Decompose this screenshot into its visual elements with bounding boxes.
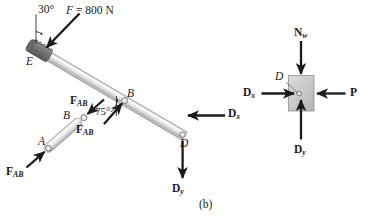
block-free-body-diagram [262,41,346,140]
beam-shadow-lower [39,53,182,137]
label-block-Dx: Dx [243,87,255,100]
label-block-Dx-subscript: x [251,91,255,100]
label-block-Dy-subscript: y [302,148,305,157]
angle-label-30: 30° [38,4,54,16]
member-AB-pin-B [81,115,87,121]
label-force-Nw: Nw [294,27,308,40]
member-AB-pin-A [46,145,52,151]
label-joint-B-beam: B [127,88,134,100]
label-force-Nw-subscript: w [302,31,307,40]
angle-label-75: 75° [95,106,110,117]
label-block-P: P [350,87,357,99]
label-reaction-Dy: Dy [172,183,184,196]
label-force-FAB-on-beam-subscript: AB [83,128,93,137]
reactions-at-D-group [183,116,225,179]
applied-force-symbol: F [66,4,73,16]
force-F-arrow [47,14,80,48]
label-member-FAB-bottom: FAB [6,166,23,179]
beam-tube-body [36,46,187,140]
figure-caption: (b) [199,199,212,211]
applied-force-F-arrow-group [36,14,80,48]
applied-force-label: F = 800 N [66,5,114,17]
label-force-FAB-on-beam: FAB [76,124,93,137]
label-reaction-Dx-subscript: x [236,112,240,121]
label-member-FAB-top-symbol: F [70,94,77,106]
label-member-joint-A: A [38,136,45,148]
figure-b-canvas [0,0,368,223]
label-joint-E: E [26,56,33,68]
label-reaction-Dx: Dx [228,108,240,121]
applied-force-value: = 800 N [73,4,114,16]
label-force-FAB-on-beam-symbol: F [76,123,83,135]
block-pin-joint-D [297,91,302,96]
label-member-FAB-top: FAB [70,95,87,108]
label-block-pin-D: D [275,71,283,83]
label-member-FAB-top-subscript: AB [77,99,87,108]
label-block-Dy: Dy [294,144,306,157]
member-AB-highlight [46,120,77,147]
label-member-FAB-bottom-symbol: F [6,165,13,177]
label-member-joint-B: B [63,110,70,122]
force-FAB-arrow-at-A [27,152,45,168]
main-beam-member-ED [25,37,187,140]
angle-arc-30 [36,32,42,35]
label-reaction-Dy-subscript: y [180,187,183,196]
label-joint-D-beam: D [180,138,188,150]
label-member-FAB-bottom-subscript: AB [13,170,23,179]
